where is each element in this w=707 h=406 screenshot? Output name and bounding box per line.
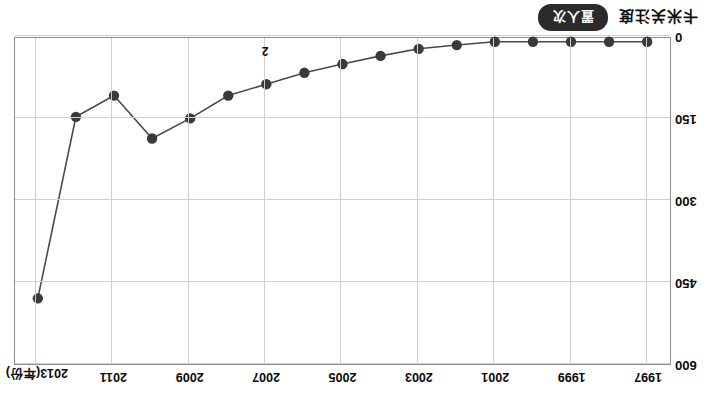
- gridline-vertical: [35, 38, 36, 364]
- data-point[interactable]: [452, 40, 462, 50]
- chart-canvas: 0150300450600 19971999200120032005200720…: [0, 0, 707, 406]
- gridline-vertical: [493, 38, 494, 364]
- data-point[interactable]: [375, 51, 385, 61]
- gridline-horizontal: [15, 199, 670, 200]
- plot-area: 2: [14, 37, 671, 365]
- data-point[interactable]: [337, 59, 347, 69]
- data-point[interactable]: [299, 68, 309, 78]
- data-point[interactable]: [490, 37, 500, 47]
- legend: 卡米关注度 置人次: [538, 4, 698, 31]
- y-axis: 0150300450600: [671, 37, 707, 365]
- data-point[interactable]: [185, 113, 195, 123]
- data-point[interactable]: [528, 37, 538, 47]
- x-axis-tick-label: 2003: [405, 370, 433, 384]
- legend-series-label: 置人次: [538, 4, 608, 31]
- y-axis-tick-label: 600: [675, 358, 697, 373]
- gridline-vertical: [570, 38, 571, 364]
- x-axis-tick-label: 1999: [558, 370, 586, 384]
- data-point-annotation: 2: [262, 44, 269, 58]
- x-axis-tick-label: 2011: [100, 370, 127, 384]
- gridline-vertical: [341, 38, 342, 364]
- y-axis-tick-label: 450: [675, 276, 697, 291]
- series-line: [38, 42, 647, 299]
- x-axis-tick-label: 2005: [329, 370, 357, 384]
- gridline-vertical: [264, 38, 265, 364]
- y-axis-tick-label: 0: [675, 30, 682, 45]
- gridline-horizontal: [15, 35, 670, 36]
- gridline-horizontal: [15, 363, 670, 364]
- data-point[interactable]: [566, 37, 576, 47]
- data-point[interactable]: [604, 37, 614, 47]
- x-axis-tick-label: 1997: [634, 370, 662, 384]
- y-axis-tick-label: 150: [675, 112, 697, 127]
- legend-title: 卡米关注度: [618, 7, 698, 28]
- gridline-horizontal: [15, 117, 670, 118]
- data-point[interactable]: [147, 133, 157, 143]
- x-axis-tick-label: 2007: [252, 370, 280, 384]
- data-point[interactable]: [261, 79, 271, 89]
- x-axis: 199719992001200320052007200920112013(年份): [14, 376, 671, 400]
- data-point[interactable]: [413, 44, 423, 54]
- data-point[interactable]: [642, 37, 652, 47]
- gridline-vertical: [111, 38, 112, 364]
- x-axis-tick-label: 2013(年份): [6, 365, 68, 384]
- gridline-vertical: [188, 38, 189, 364]
- gridline-horizontal: [15, 281, 670, 282]
- x-axis-tick-label: 2001: [481, 370, 509, 384]
- data-point[interactable]: [223, 90, 233, 100]
- gridline-vertical: [646, 38, 647, 364]
- x-axis-tick-label: 2009: [176, 370, 204, 384]
- series-group: [15, 38, 670, 364]
- y-axis-tick-label: 300: [675, 194, 697, 209]
- gridline-vertical: [417, 38, 418, 364]
